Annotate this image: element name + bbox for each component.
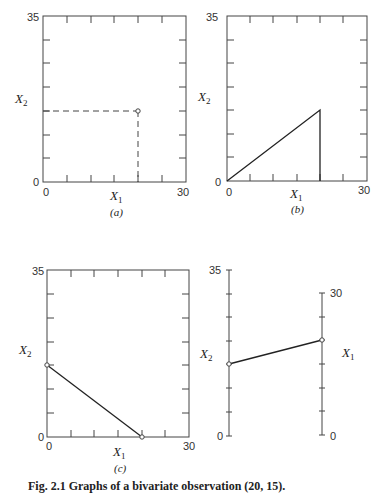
panel-d-x2-max-label: 35 — [209, 264, 221, 276]
panel-a-y-axis-label: X2 — [14, 91, 27, 108]
panel-c-x-axis-label: X1 — [112, 444, 125, 461]
panel-a-frame — [43, 16, 186, 182]
panel-d-x1-axis — [319, 293, 325, 435]
panel-b-y-axis-label: X2 — [197, 89, 210, 106]
panel-a-y-max-label: 35 — [27, 11, 39, 23]
panel-d-x2-axis — [226, 270, 232, 436]
panel-a-data-point — [136, 109, 140, 113]
panel-d-connecting-line — [229, 340, 322, 364]
panel-c-connecting-line — [47, 365, 142, 437]
panel-d-x2-point — [227, 362, 231, 366]
panel-c-y-axis-label: X2 — [18, 342, 31, 359]
panel-b-x-max-label: 30 — [358, 184, 370, 196]
panel-d-x1-zero-label: 0 — [330, 430, 336, 442]
panel-a-y-zero-label: 0 — [33, 176, 39, 188]
panel-a-caption: (a) — [110, 206, 123, 219]
panel-a-x-max-label: 30 — [177, 186, 189, 198]
panel-b-caption: (b) — [291, 203, 304, 216]
figure-caption: Fig. 2.1 Graphs of a bivariate observati… — [28, 479, 285, 494]
panel-a-x-zero-label: 0 — [43, 186, 49, 198]
panel-c-y-max-label: 35 — [32, 265, 44, 277]
panel-c-y-zero-label: 0 — [38, 431, 44, 443]
panel-b-profile-line — [227, 110, 320, 181]
panel-c-ticks — [47, 270, 189, 437]
panel-c-x2-point — [45, 363, 49, 367]
panel-a-ticks — [43, 16, 186, 182]
panel-b-y-zero-label: 0 — [215, 176, 221, 188]
panel-b-x-zero-label: 0 — [226, 186, 232, 198]
panel-c-x-max-label: 30 — [183, 440, 195, 452]
panel-b-y-max-label: 35 — [206, 11, 218, 23]
panel-d-x1-axis-label: X1 — [341, 345, 354, 362]
panel-d-x1-point — [320, 338, 324, 342]
panel-b-frame — [227, 16, 367, 181]
panel-c-frame — [47, 270, 189, 437]
panel-c-caption: (c) — [114, 462, 127, 475]
panel-d-x1-max-label: 30 — [330, 287, 342, 299]
panel-d-x2-zero-label: 0 — [217, 430, 223, 442]
panel-d-x2-axis-label: X2 — [199, 346, 212, 363]
panel-a-projection-lines — [43, 111, 138, 182]
panel-c-x1-point — [140, 435, 144, 439]
panel-b-ticks — [227, 16, 367, 181]
panel-c-x-zero-label: 0 — [46, 440, 52, 452]
panel-a-x-axis-label: X1 — [109, 188, 122, 205]
panel-b-x-axis-label: X1 — [289, 186, 302, 203]
